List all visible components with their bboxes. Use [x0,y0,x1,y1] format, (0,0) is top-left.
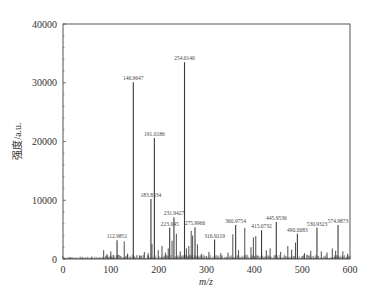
peak-label: 275.9966 [185,220,206,226]
peak-label: 112.9851 [107,233,128,239]
peak-label: 360.9754 [225,218,246,224]
peak-label: 574.9873 [328,218,349,224]
labeled-peaks: 112.9851146.9647183.8334191.0186223.0452… [107,55,349,259]
peak-label: 231.9427 [164,210,185,216]
x-tick-label: 600 [343,264,358,275]
peak-label: 415.0732 [251,223,272,229]
peak-label: 316.9219 [204,233,225,239]
peak-label: 183.8334 [141,192,162,198]
peak-label: 254.0140 [174,55,195,61]
x-tick-label: 500 [295,264,310,275]
x-tick-label: 300 [199,264,214,275]
peak-label: 223.045 [161,221,179,227]
y-axis: 010000200003000040000 [32,19,66,265]
x-tick-label: 100 [103,264,118,275]
x-tick-label: 0 [61,264,66,275]
y-tick-label: 0 [52,254,57,265]
y-tick-label: 20000 [32,136,57,147]
x-axis-title: m/z [199,276,213,287]
y-tick-label: 40000 [32,19,57,30]
peak-label: 191.0186 [144,131,165,137]
peak-label: 490.0083 [287,227,308,233]
y-axis-title: 强度/a.u. [11,122,23,159]
x-tick-label: 200 [151,264,166,275]
mass-spectrum-chart: 112.9851146.9647183.8334191.0186223.0452… [0,0,373,303]
peak-label: 146.9647 [123,75,144,81]
y-tick-label: 10000 [32,195,57,206]
y-tick-label: 30000 [32,77,57,88]
peak-label: 445.9536 [266,215,287,221]
x-tick-label: 400 [247,264,262,275]
peak-label: 530.9323 [307,221,328,227]
